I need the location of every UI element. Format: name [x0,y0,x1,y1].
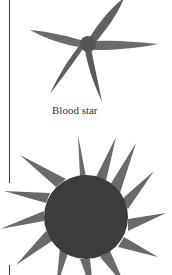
sun-star-image [0,132,172,275]
figure-caption: Blood star [52,104,112,116]
textbook-page: Blood star [0,0,172,275]
blood-star-image [20,0,160,108]
